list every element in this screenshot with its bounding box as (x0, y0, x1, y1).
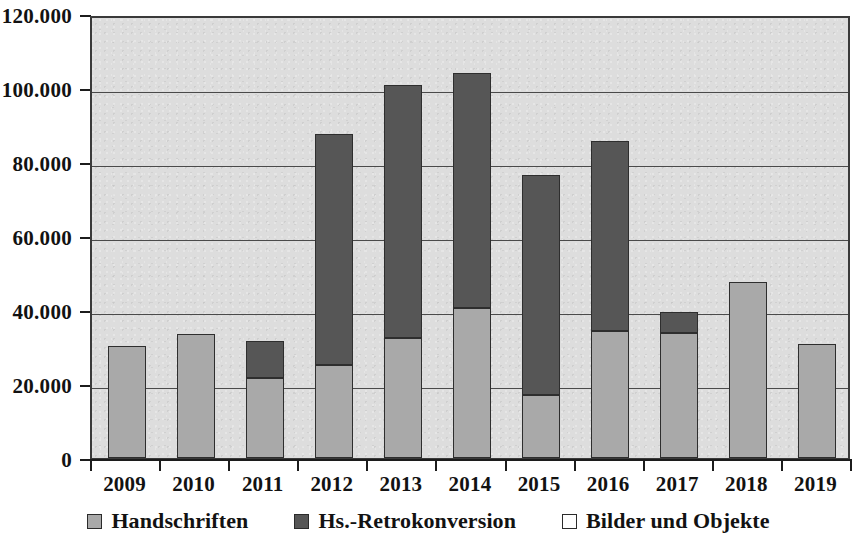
bar-group[interactable] (522, 16, 560, 458)
bar-segment[interactable] (315, 134, 353, 365)
y-tick-label: 40.000 (12, 300, 72, 325)
legend-swatch-icon (87, 514, 102, 529)
bar-segment[interactable] (108, 346, 146, 458)
legend-swatch-icon (294, 514, 309, 529)
stacked-bar-chart: 020.00040.00060.00080.000100.000120.000 … (0, 0, 857, 545)
x-tick-label: 2018 (725, 472, 768, 497)
bar-segment[interactable] (453, 308, 491, 458)
x-tick-mark (366, 460, 368, 471)
bar-segment[interactable] (591, 331, 629, 458)
x-tick-label: 2019 (794, 472, 837, 497)
bar-group[interactable] (453, 16, 491, 458)
legend-entry[interactable]: Hs.-Retrokonversion (294, 508, 516, 534)
x-tick-label: 2014 (449, 472, 492, 497)
chart-legend: HandschriftenHs.-RetrokonversionBilder u… (0, 508, 857, 534)
bar-segment[interactable] (660, 333, 698, 458)
bar-segment[interactable] (729, 282, 767, 458)
x-tick-mark (781, 460, 783, 471)
x-tick-mark (159, 460, 161, 471)
legend-label: Handschriften (111, 508, 248, 534)
bar-segment[interactable] (384, 338, 422, 458)
x-tick-label: 2016 (587, 472, 630, 497)
x-tick-label: 2012 (310, 472, 353, 497)
bar-segment[interactable] (522, 175, 560, 395)
x-tick-label: 2015 (518, 472, 561, 497)
bar-segment[interactable] (246, 378, 284, 458)
x-tick-mark (712, 460, 714, 471)
x-tick-mark (643, 460, 645, 471)
x-axis-line (88, 459, 852, 461)
y-tick-label: 80.000 (12, 152, 72, 177)
legend-label: Hs.-Retrokonversion (318, 508, 516, 534)
x-tick-mark (435, 460, 437, 471)
x-tick-mark (850, 460, 852, 471)
bar-segment[interactable] (453, 73, 491, 308)
x-tick-mark (574, 460, 576, 471)
x-tick-label: 2011 (242, 472, 284, 497)
bar-segment[interactable] (177, 334, 215, 458)
bar-segment[interactable] (591, 141, 629, 331)
bar-group[interactable] (246, 16, 284, 458)
bar-group[interactable] (384, 16, 422, 458)
legend-entry[interactable]: Handschriften (87, 508, 248, 534)
y-axis: 020.00040.00060.00080.000100.000120.000 (0, 0, 82, 480)
x-tick-label: 2013 (380, 472, 423, 497)
bar-group[interactable] (798, 16, 836, 458)
y-tick-label: 0 (61, 448, 72, 473)
bar-segment[interactable] (246, 341, 284, 378)
x-tick-mark (228, 460, 230, 471)
bar-group[interactable] (591, 16, 629, 458)
y-tick-label: 60.000 (12, 226, 72, 251)
plot-area (90, 16, 850, 460)
x-tick-mark (90, 460, 92, 471)
bars-layer (92, 18, 848, 458)
legend-label: Bilder und Objekte (586, 508, 770, 534)
legend-swatch-icon (562, 514, 577, 529)
bar-segment[interactable] (522, 395, 560, 458)
x-tick-mark (505, 460, 507, 471)
x-tick-label: 2009 (103, 472, 146, 497)
y-tick-label: 20.000 (12, 374, 72, 399)
bar-segment[interactable] (660, 312, 698, 333)
bar-group[interactable] (729, 16, 767, 458)
bar-segment[interactable] (798, 344, 836, 458)
x-tick-label: 2010 (172, 472, 215, 497)
bar-group[interactable] (315, 16, 353, 458)
bar-segment[interactable] (315, 365, 353, 458)
x-tick-label: 2017 (656, 472, 699, 497)
bar-segment[interactable] (384, 85, 422, 338)
y-tick-label: 100.000 (2, 78, 72, 103)
x-tick-mark (297, 460, 299, 471)
bar-group[interactable] (660, 16, 698, 458)
legend-entry[interactable]: Bilder und Objekte (562, 508, 770, 534)
bar-group[interactable] (108, 16, 146, 458)
y-tick-label: 120.000 (2, 4, 72, 29)
bar-group[interactable] (177, 16, 215, 458)
